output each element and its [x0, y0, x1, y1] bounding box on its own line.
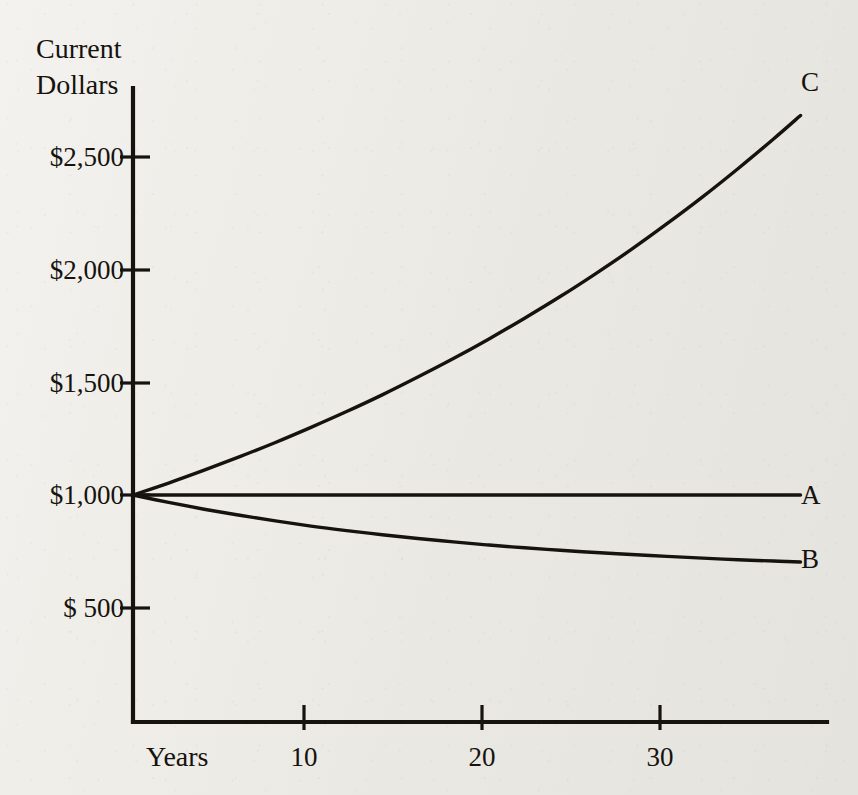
y-tick-label-1000: $1,000: [50, 480, 124, 510]
x-axis-title: Years: [146, 741, 209, 772]
series-label-a: A: [801, 480, 821, 510]
x-tick-label-30: 30: [647, 742, 674, 772]
x-axis-tick-labels: 10 20 30: [291, 742, 674, 772]
series-label-c: C: [801, 67, 819, 97]
x-axis-ticks: [304, 705, 660, 730]
x-tick-label-20: 20: [469, 742, 496, 772]
y-tick-label-500: $ 500: [63, 593, 124, 623]
chart-page: Current Dollars $2,500 $2,000 $1,500 $1,…: [0, 0, 858, 795]
line-chart: Current Dollars $2,500 $2,000 $1,500 $1,…: [0, 0, 858, 795]
y-axis-title-line2: Dollars: [36, 69, 118, 100]
y-axis-tick-labels: $2,500 $2,000 $1,500 $1,000 $ 500: [50, 142, 124, 623]
series-line-b: [133, 495, 801, 562]
y-tick-label-1500: $1,500: [50, 368, 124, 398]
x-tick-label-10: 10: [291, 742, 318, 772]
y-tick-label-2000: $2,000: [50, 255, 124, 285]
y-tick-label-2500: $2,500: [50, 142, 124, 172]
series-label-b: B: [801, 544, 819, 574]
y-axis-title-line1: Current: [36, 33, 122, 64]
series-line-c: [133, 115, 801, 495]
